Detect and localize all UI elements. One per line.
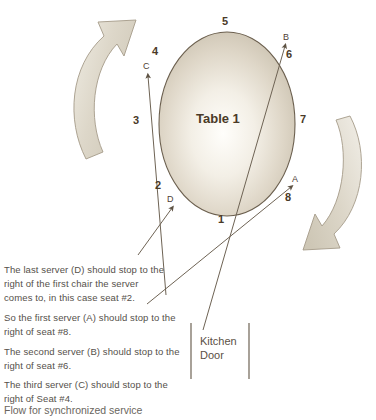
server-label-d: D (167, 195, 174, 204)
server-label-a: A (292, 175, 298, 184)
seat-number-4: 4 (152, 46, 158, 57)
seat-number-8: 8 (285, 192, 291, 203)
seat-number-6: 6 (286, 49, 292, 60)
kitchen-door-label: Kitchen Door (200, 335, 237, 363)
server-label-b: B (283, 33, 289, 42)
note-first-server: So the first server (A) should stop to t… (4, 311, 190, 339)
diagram-caption: Flow for synchronized service (4, 404, 142, 417)
seat-number-2: 2 (155, 180, 161, 191)
seat-number-7: 7 (300, 114, 306, 125)
seat-number-1: 1 (218, 214, 224, 225)
table-label: Table 1 (196, 112, 240, 125)
note-second-server: The second server (B) should stop to the… (4, 345, 190, 373)
note-third-server: The third server (C) should stop to the … (4, 378, 190, 406)
rotation-arrow-left (74, 20, 136, 159)
note-last-server: The last server (D) should stop to the r… (4, 263, 184, 304)
rotation-arrow-right (303, 116, 362, 250)
server-label-c: C (143, 62, 150, 71)
diagram-canvas: Table 1 1 2 3 4 5 6 7 8 A B C D Kitchen … (0, 0, 376, 420)
seat-number-5: 5 (222, 16, 228, 27)
seat-number-3: 3 (133, 115, 139, 126)
service-path-d (138, 208, 172, 255)
